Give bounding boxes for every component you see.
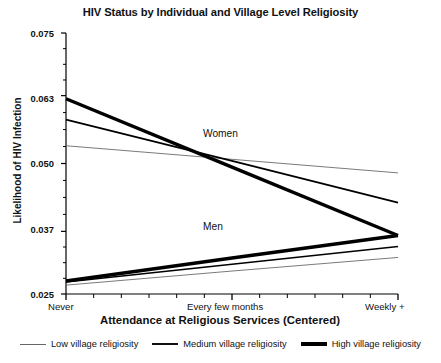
data-line-women-medium — [66, 120, 398, 203]
legend-line-thick-icon — [301, 342, 327, 346]
legend-item-low: Low village religiosity — [20, 339, 138, 349]
data-line-women-thick — [66, 99, 398, 236]
legend-label-low: Low village religiosity — [51, 339, 138, 349]
legend-line-medium-icon — [152, 343, 178, 345]
data-line-men-thin — [66, 257, 398, 285]
legend-line-thin-icon — [20, 344, 46, 345]
data-line-men-medium — [66, 246, 398, 281]
legend-item-high: High village religiosity — [301, 339, 421, 349]
legend-label-high: High village religiosity — [332, 339, 421, 349]
plot-area — [0, 0, 441, 363]
legend-label-medium: Medium village religiosity — [183, 339, 286, 349]
data-line-men-thick — [66, 236, 398, 281]
chart-figure: HIV Status by Individual and Village Lev… — [0, 0, 441, 363]
chart-legend: Low village religiosity Medium village r… — [0, 339, 441, 349]
legend-item-medium: Medium village religiosity — [152, 339, 286, 349]
data-lines-layer — [66, 99, 398, 285]
